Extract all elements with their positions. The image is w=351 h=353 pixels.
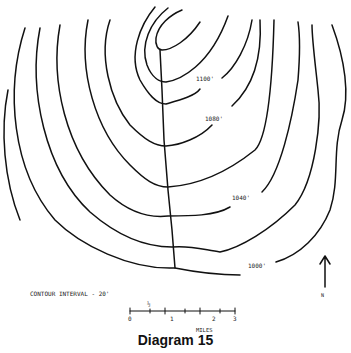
contour-line — [36, 25, 319, 252]
contour-label: 1000' — [248, 262, 266, 269]
scale-tick-label: 0 — [128, 315, 132, 322]
north-label: N — [321, 292, 324, 298]
contour-line — [222, 20, 252, 78]
contour-interval-label: CONTOUR INTERVAL - 20' — [30, 290, 109, 297]
contour-line — [145, 8, 228, 82]
scale-bar — [130, 308, 235, 314]
contour-line — [276, 25, 346, 262]
diagram-title: Diagram 15 — [0, 332, 351, 348]
contour-line — [156, 10, 200, 50]
scale-tick-label: 3 — [233, 315, 237, 322]
north-arrow — [320, 256, 330, 287]
scale-tick-label: 1 — [170, 315, 174, 322]
contour-label: 1040' — [232, 194, 250, 201]
contour-map: 1100' 1080' 1040' 1000' 0 1 2 3 ½ — [0, 0, 351, 353]
scale-half-mark: ½ — [147, 300, 151, 307]
contour-label: 1080' — [205, 115, 223, 122]
stream-line — [160, 50, 175, 268]
contour-label: 1100' — [196, 75, 214, 82]
contour-line — [105, 20, 212, 146]
contour-line — [4, 90, 20, 220]
scale-tick-label: 2 — [212, 315, 216, 322]
contour-line — [14, 28, 240, 275]
